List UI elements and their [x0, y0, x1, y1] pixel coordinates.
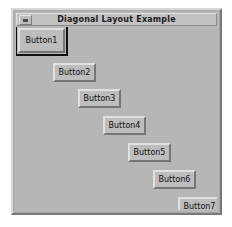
- button-7[interactable]: Button7: [178, 197, 217, 210]
- window-frame-inner: Diagonal Layout Example Button1Button2Bu…: [13, 10, 220, 213]
- window-title: Diagonal Layout Example: [17, 14, 216, 25]
- button-5[interactable]: Button5: [128, 143, 171, 162]
- button-3[interactable]: Button3: [78, 89, 121, 108]
- window-client-area: Button1Button2Button3Button4Button5Butto…: [16, 27, 217, 210]
- button-5-label: Button5: [134, 149, 166, 157]
- button-4-label: Button4: [109, 122, 141, 130]
- button-2-label: Button2: [59, 69, 91, 77]
- button-6-label: Button6: [159, 176, 191, 184]
- window-menu-button[interactable]: [19, 15, 32, 25]
- button-1[interactable]: Button1: [18, 28, 65, 53]
- window-titlebar[interactable]: Diagonal Layout Example: [16, 13, 217, 26]
- window-menu-icon: [23, 19, 28, 22]
- desktop-background: Diagonal Layout Example Button1Button2Bu…: [0, 0, 232, 227]
- button-4[interactable]: Button4: [103, 116, 146, 135]
- application-window: Diagonal Layout Example Button1Button2Bu…: [11, 8, 222, 215]
- button-1-label: Button1: [26, 37, 58, 45]
- button-7-label: Button7: [184, 203, 216, 211]
- button-3-label: Button3: [84, 95, 116, 103]
- button-6[interactable]: Button6: [153, 170, 196, 189]
- button-2[interactable]: Button2: [53, 63, 96, 82]
